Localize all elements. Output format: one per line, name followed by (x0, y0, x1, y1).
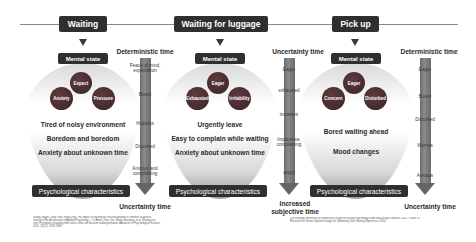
mood-bubble: Anxiety (50, 87, 73, 110)
down-arrow-icon (279, 183, 299, 195)
stage-header-waiting-for-luggage: Waiting for luggage (174, 16, 268, 32)
mood-bubble: Concern (322, 87, 345, 110)
arrow-label: Eager (400, 67, 450, 72)
time-arrow-shaft (284, 58, 295, 184)
psych-line: Urgently leave (150, 121, 290, 128)
arrow-label: Eager (264, 67, 314, 72)
down-triangle-icon (351, 39, 359, 46)
arrow-label: Peace of mind, expectation (120, 63, 170, 73)
arrow-label: Bored (400, 94, 450, 99)
psych-line: Anxiety about unknown time (150, 149, 290, 156)
stage-header-pick-up: Pick up (332, 16, 379, 32)
time-column-title: Deterministic time (115, 48, 175, 55)
psych-line: Boredom and boredom (23, 135, 143, 142)
psych-characteristics-label: Psychological characteristics (310, 185, 408, 197)
down-arrow-icon (135, 183, 155, 195)
reference-right: Luo Weifang. Research on Interactive Des… (290, 217, 425, 224)
mood-bubble: Eager (207, 72, 229, 94)
mood-bubble: Pressure (92, 87, 115, 110)
mood-bubble: Disturbed (364, 87, 387, 110)
psych-line: Bored waiting ahead (296, 128, 416, 135)
arrow-label: Worries (400, 143, 450, 148)
mood-bubble: Exhausted (186, 87, 209, 110)
down-arrow-icon (415, 183, 435, 195)
arrow-label: Disturbed (400, 117, 450, 122)
time-column-footer: Uncertainty time (115, 203, 175, 210)
psych-characteristics-label: Psychological characteristics (169, 185, 267, 197)
down-triangle-icon (79, 39, 87, 46)
psych-line: Mood changes (296, 148, 416, 155)
time-column-footer: Uncertainty time (390, 203, 470, 210)
stage-header-waiting: Waiting (59, 16, 107, 32)
arrow-label: angry (264, 170, 314, 175)
time-column-footer: Increased subjective time (260, 200, 330, 216)
mood-bubble: Eager (343, 72, 365, 94)
time-column-title: Uncertainty time (268, 48, 328, 55)
arrow-label: Anxious (400, 173, 450, 178)
mental-state-label: Mental state (58, 53, 108, 64)
time-column-title: Deterministic time (394, 48, 464, 55)
down-triangle-icon (216, 39, 224, 46)
mood-bubble: Expect (70, 72, 92, 94)
psych-characteristics-label: Psychological characteristics (32, 185, 130, 197)
arrow-label: Bored (120, 92, 170, 97)
arrow-label: Anxious and complaining (120, 166, 170, 176)
reference-left: Shang Jingjie, Yang Yuan, Fang Ding. The… (33, 216, 161, 229)
mental-state-label: Mental state (331, 53, 381, 64)
psych-line: Anxiety about unknown time (23, 149, 143, 156)
mental-state-label: Mental state (195, 53, 245, 64)
mood-bubble: Irritability (228, 87, 251, 110)
